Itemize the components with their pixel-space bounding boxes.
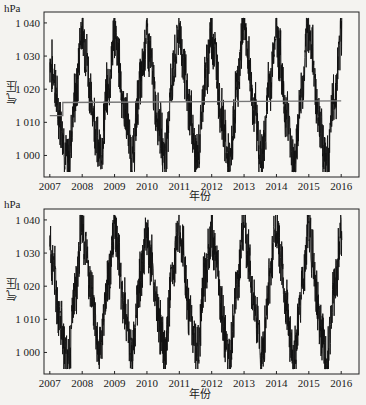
- pressure-charts: 1 0001 0101 0201 0301 040200720082009201…: [0, 0, 366, 405]
- x-tick-label: 2008: [71, 180, 94, 192]
- x-tick-label: 2012: [201, 180, 223, 192]
- x-tick-label: 2013: [233, 180, 256, 192]
- x-tick-label: 2011: [169, 377, 191, 389]
- x-tick-label: 2010: [136, 180, 159, 192]
- x-tick-label: 2013: [233, 377, 256, 389]
- x-tick-label: 2012: [201, 377, 223, 389]
- x-tick-label: 2008: [71, 377, 94, 389]
- y-tick-label: 1 040: [15, 214, 40, 226]
- x-tick-label: 2009: [104, 377, 127, 389]
- x-tick-label: 2007: [39, 180, 62, 192]
- y-tick-label: 1 000: [15, 346, 40, 358]
- y-tick-label: 1 030: [15, 247, 40, 259]
- y-tick-label: 1 040: [15, 17, 40, 29]
- y-tick-label: 1 030: [15, 50, 40, 62]
- y-tick-label: 1 000: [15, 149, 40, 161]
- y-tick-label: 1 020: [15, 83, 40, 95]
- x-tick-label: 2011: [169, 180, 191, 192]
- x-tick-label: 2015: [298, 180, 321, 192]
- x-tick-label: 2014: [265, 180, 288, 192]
- y-tick-label: 1 020: [15, 280, 40, 292]
- x-tick-label: 2009: [104, 180, 127, 192]
- x-tick-label: 2016: [330, 180, 353, 192]
- chart-bottom: 1 0001 0101 0201 0301 040200720082009201…: [15, 209, 359, 389]
- y-tick-label: 1 010: [15, 313, 40, 325]
- y-tick-label: 1 010: [15, 116, 40, 128]
- x-tick-label: 2015: [298, 377, 321, 389]
- x-tick-label: 2007: [39, 377, 62, 389]
- x-tick-label: 2014: [265, 377, 288, 389]
- chart-top: 1 0001 0101 0201 0301 040200720082009201…: [15, 12, 359, 192]
- x-tick-label: 2010: [136, 377, 159, 389]
- x-tick-label: 2016: [330, 377, 353, 389]
